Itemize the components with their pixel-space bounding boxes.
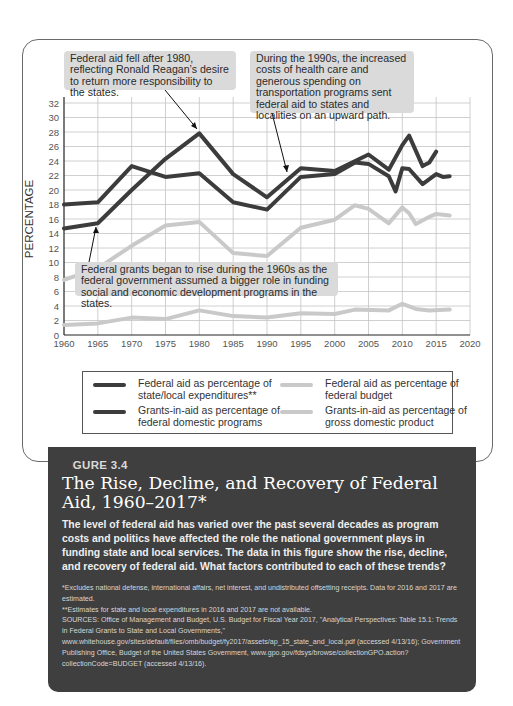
figure-caption: FIGURE 3.4 The Rise, Decline, and Recove… <box>48 447 476 692</box>
note-footnote-2: **Estimates for state and local expendit… <box>62 605 462 616</box>
x-tick-label: 1975 <box>155 338 176 349</box>
annotation-1960s: Federal grants began to rise during the … <box>75 262 338 296</box>
x-tick-label: 1970 <box>121 338 142 349</box>
y-tick-label: 14 <box>48 228 59 239</box>
legend-item: Federal aid as percentage of federal bud… <box>280 378 475 401</box>
y-tick-label: 28 <box>48 127 59 138</box>
legend-label: Federal aid as percentage of state/local… <box>138 378 288 401</box>
x-tick-label: 1965 <box>87 338 108 349</box>
figure-title: The Rise, Decline, and Recovery of Feder… <box>62 474 462 512</box>
annotation-text: During the 1990s, the increased costs of… <box>256 52 406 121</box>
figure-description: The level of federal aid has varied over… <box>62 518 462 574</box>
legend-item: Federal aid as percentage of state/local… <box>93 378 288 401</box>
y-tick-label: 32 <box>48 98 59 109</box>
x-tick-label: 1980 <box>189 338 210 349</box>
x-tick-label: 1990 <box>256 338 277 349</box>
y-tick-label: 22 <box>48 170 59 181</box>
y-tick-label: 24 <box>48 156 59 167</box>
legend-item: Grants-in-aid as percentage of gross dom… <box>280 405 475 428</box>
x-tick-label: 2000 <box>324 338 345 349</box>
y-tick-label: 6 <box>54 286 59 297</box>
legend-item: Grants-in-aid as percentage of federal d… <box>93 405 288 428</box>
annotation-reagan: Federal aid fell after 1980, reflecting … <box>64 51 236 90</box>
note-sources: SOURCES: Office of Management and Budget… <box>62 615 462 669</box>
y-tick-label: 12 <box>48 243 59 254</box>
series-line <box>64 162 450 209</box>
chart-legend: Federal aid as percentage of state/local… <box>82 371 453 434</box>
y-tick-label: 8 <box>54 272 59 283</box>
y-tick-label: 26 <box>48 141 59 152</box>
x-tick-label: 1960 <box>53 338 74 349</box>
annotation-1990s: During the 1990s, the increased costs of… <box>250 51 414 113</box>
y-tick-label: 16 <box>48 214 59 225</box>
y-axis-ticks: 02468101214161820222426283032 <box>48 98 59 341</box>
legend-label: Grants-in-aid as percentage of federal d… <box>138 405 288 428</box>
legend-label: Grants-in-aid as percentage of gross dom… <box>325 405 475 428</box>
x-tick-label: 2010 <box>392 338 413 349</box>
y-tick-label: 30 <box>48 112 59 123</box>
legend-swatch-dark <box>93 383 126 387</box>
x-tick-label: 2015 <box>426 338 447 349</box>
note-footnote-1: *Excludes national defense, internationa… <box>62 583 462 605</box>
series-line <box>64 304 450 325</box>
y-tick-label: 4 <box>54 301 59 312</box>
legend-swatch-light <box>280 383 313 387</box>
x-tick-label: 1985 <box>223 338 244 349</box>
figure-notes: *Excludes national defense, internationa… <box>62 583 462 669</box>
y-tick-label: 20 <box>48 185 59 196</box>
x-tick-label: 2020 <box>459 338 480 349</box>
figure-label: FIGURE 3.4 <box>62 459 462 471</box>
y-axis-label: PERCENTAGE <box>23 179 35 258</box>
legend-label: Federal aid as percentage of federal bud… <box>325 378 475 401</box>
x-axis-ticks: 1960196519701975198019851990199520002005… <box>53 338 480 349</box>
y-tick-label: 2 <box>54 315 59 326</box>
x-tick-label: 2005 <box>358 338 379 349</box>
legend-swatch-light <box>280 410 313 414</box>
y-tick-label: 10 <box>48 257 59 268</box>
x-tick-label: 1995 <box>290 338 311 349</box>
legend-swatch-dark <box>93 410 126 414</box>
y-tick-label: 18 <box>48 199 59 210</box>
